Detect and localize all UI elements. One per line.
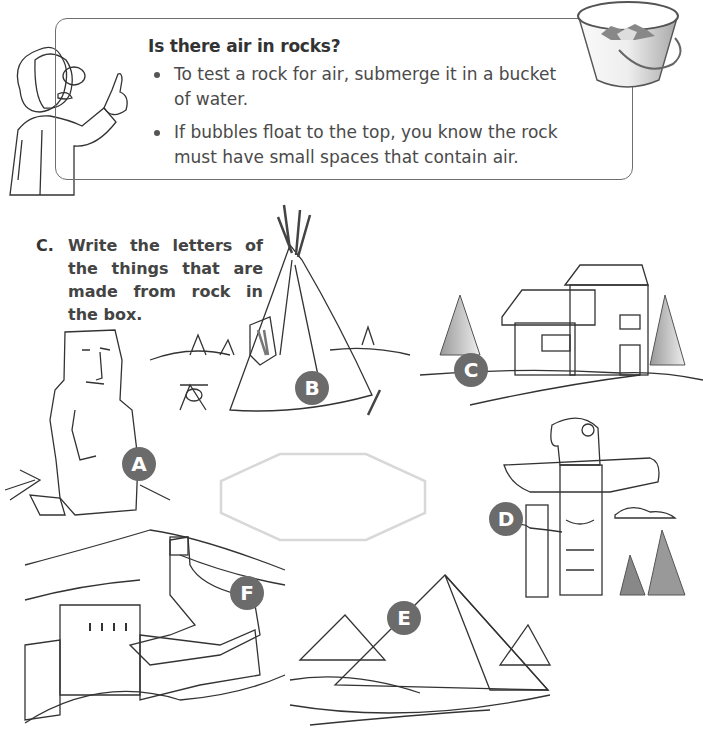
great-wall-illustration bbox=[20, 525, 285, 725]
question-letter: C. bbox=[36, 236, 54, 255]
info-bullet: To test a rock for air, submerge it in a… bbox=[150, 62, 570, 112]
totem-poles-illustration bbox=[490, 410, 703, 600]
item-badge-e: E bbox=[387, 601, 421, 635]
item-badge-c: C bbox=[454, 353, 488, 387]
item-badge-f: F bbox=[230, 576, 264, 610]
info-bullet: If bubbles float to the top, you know th… bbox=[150, 120, 570, 170]
teepee-illustration bbox=[150, 205, 410, 420]
item-badge-d: D bbox=[489, 502, 523, 536]
item-badge-a: A bbox=[122, 447, 156, 481]
item-badge-b: B bbox=[295, 371, 329, 405]
info-bullets: To test a rock for air, submerge it in a… bbox=[150, 62, 570, 178]
info-title: Is there air in rocks? bbox=[148, 36, 340, 56]
stone-statue-illustration bbox=[0, 320, 175, 520]
bucket-icon bbox=[575, 0, 685, 95]
pyramids-illustration bbox=[290, 575, 565, 730]
